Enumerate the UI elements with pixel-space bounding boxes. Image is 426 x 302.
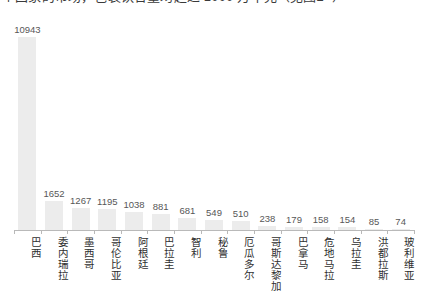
category-text: 阿根廷: [121, 237, 147, 270]
bar-slot[interactable]: 1195: [94, 23, 120, 230]
x-axis-category-label: 洪都拉斯: [361, 237, 387, 281]
bar[interactable]: [72, 208, 90, 230]
x-axis-category-label: 玻利维亚: [388, 237, 414, 281]
x-axis-category-label: 哥斯达黎加: [254, 237, 280, 292]
bar-value-label: 549: [206, 207, 222, 218]
bar-slot[interactable]: 85: [361, 23, 387, 230]
category-text: 委内瑞拉: [41, 237, 67, 281]
category-text: 墨西哥: [68, 237, 94, 270]
bar-slot[interactable]: 1267: [68, 23, 94, 230]
clipped-caption-strip: 个国家的市场，包装饮合量均超过 1000 万千克（见图2- ）: [0, 0, 426, 11]
bar-slot[interactable]: 1038: [121, 23, 147, 230]
x-axis-category-label: 危地马拉: [308, 237, 334, 281]
bar[interactable]: [178, 218, 196, 230]
bar-slot[interactable]: 74: [388, 23, 414, 230]
bar[interactable]: [152, 214, 170, 230]
category-text: 哥伦比亚: [94, 237, 120, 281]
x-axis-category-label: 秘鲁: [201, 237, 227, 259]
x-axis-category-label: 巴西: [14, 237, 40, 259]
x-axis-tick: [41, 230, 42, 234]
x-axis-tick: [414, 230, 415, 234]
bar-value-label: 1195: [97, 196, 117, 207]
category-text: 乌拉圭: [334, 237, 360, 270]
x-axis-tick: [121, 230, 122, 234]
x-axis-tick: [227, 230, 228, 234]
bar-value-label: 1038: [123, 199, 144, 210]
bar-slot[interactable]: 154: [334, 23, 360, 230]
bar-value-label: 154: [339, 214, 355, 225]
x-axis-tick: [387, 230, 388, 234]
x-axis-tick: [281, 230, 282, 234]
bar-value-label: 681: [179, 205, 195, 216]
x-axis-category-label: 厄瓜多尔: [228, 237, 254, 281]
bar-slot[interactable]: 10943: [14, 23, 40, 230]
x-axis-category-label: 巴拉圭: [148, 237, 174, 270]
category-text: 秘鲁: [201, 237, 227, 259]
category-text: 危地马拉: [308, 237, 334, 281]
x-axis-tick: [94, 230, 95, 234]
bar-chart: 1094316521267119510388816815495102381791…: [0, 11, 426, 302]
bar[interactable]: [125, 212, 143, 230]
bar-value-label: 74: [395, 216, 406, 227]
bar-slot[interactable]: 1652: [41, 23, 67, 230]
x-axis-tick: [307, 230, 308, 234]
bar-slot[interactable]: 681: [174, 23, 200, 230]
bar-value-label: 10943: [14, 24, 40, 35]
category-text: 巴拿马: [281, 237, 307, 270]
bar-value-label: 179: [286, 214, 302, 225]
category-text: 智利: [174, 237, 200, 259]
category-text: 巴西: [14, 237, 40, 259]
x-axis-category-label: 哥伦比亚: [94, 237, 120, 281]
x-axis-tick: [147, 230, 148, 234]
bar[interactable]: [98, 209, 116, 230]
category-text: 厄瓜多尔: [228, 237, 254, 281]
category-text: 玻利维亚: [388, 237, 414, 281]
x-axis-category-label: 墨西哥: [68, 237, 94, 270]
x-axis-tick: [201, 230, 202, 234]
x-axis-tick: [361, 230, 362, 234]
x-axis-category-label: 巴拿马: [281, 237, 307, 270]
bar[interactable]: [232, 221, 250, 230]
bar-slot[interactable]: 179: [281, 23, 307, 230]
bar[interactable]: [45, 201, 63, 230]
clipped-caption-text: 个国家的市场，包装饮合量均超过 1000 万千克（见图2- ）: [2, 0, 346, 5]
bar-value-label: 238: [259, 213, 275, 224]
x-axis-tick: [254, 230, 255, 234]
bar-slot[interactable]: 158: [308, 23, 334, 230]
bar-slot[interactable]: 549: [201, 23, 227, 230]
x-axis-category-labels: 巴西委内瑞拉墨西哥哥伦比亚阿根廷巴拉圭智利秘鲁厄瓜多尔哥斯达黎加巴拿马危地马拉乌…: [14, 237, 414, 301]
x-axis-category-label: 阿根廷: [121, 237, 147, 270]
bar-slot[interactable]: 238: [254, 23, 280, 230]
bar-value-label: 1652: [43, 188, 64, 199]
bar[interactable]: [18, 37, 36, 230]
plot-area: 1094316521267119510388816815495102381791…: [14, 23, 414, 230]
x-axis-category-label: 智利: [174, 237, 200, 259]
bar-slot[interactable]: 510: [228, 23, 254, 230]
bar-value-label: 85: [369, 216, 380, 227]
x-axis-tick: [174, 230, 175, 234]
category-text: 巴拉圭: [148, 237, 174, 270]
bar-value-label: 881: [153, 201, 169, 212]
bar-value-label: 510: [233, 208, 249, 219]
bar-value-label: 158: [313, 214, 329, 225]
bar[interactable]: [205, 220, 223, 230]
x-axis-tick: [67, 230, 68, 234]
bar-value-label: 1267: [70, 195, 91, 206]
x-axis-category-label: 委内瑞拉: [41, 237, 67, 281]
category-text: 洪都拉斯: [361, 237, 387, 281]
x-axis-category-label: 乌拉圭: [334, 237, 360, 270]
x-axis-tick: [334, 230, 335, 234]
x-axis-line: [14, 230, 414, 231]
category-text: 哥斯达黎加: [254, 237, 280, 292]
bar-slot[interactable]: 881: [148, 23, 174, 230]
x-axis-tick: [14, 230, 15, 234]
